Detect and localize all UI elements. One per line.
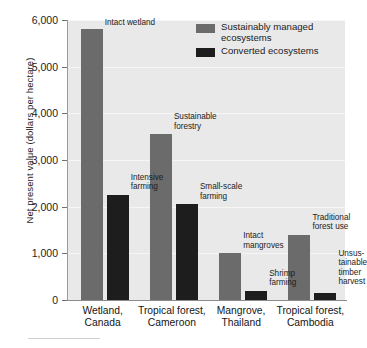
y-tick-label: 1,000	[12, 247, 58, 259]
legend-label: Converted ecosystems	[221, 46, 319, 57]
bar	[81, 29, 103, 300]
bar-value-label: Shrimp farming	[269, 269, 296, 288]
y-tick-mark	[62, 67, 67, 68]
bar	[176, 204, 198, 300]
legend-item[interactable]: Converted ecosystems	[196, 46, 346, 57]
y-tick-mark	[62, 113, 67, 114]
y-tick-label: 0	[12, 294, 58, 306]
y-tick-label: 4,000	[12, 107, 58, 119]
bar	[219, 253, 241, 300]
y-tick-label: 6,000	[12, 14, 58, 26]
y-tick-label: 2,000	[12, 201, 58, 213]
y-axis-line	[67, 20, 68, 301]
bar-value-label: Small-scale farming	[200, 182, 242, 201]
bar	[245, 291, 267, 300]
legend-swatch-icon	[196, 24, 215, 33]
bar	[314, 293, 336, 300]
footer-divider	[28, 338, 100, 339]
bar	[150, 134, 172, 300]
bar-value-label: Sustainable forestry	[174, 112, 217, 131]
chart-legend: Sustainably managed ecosystemsConverted …	[196, 22, 346, 60]
y-tick-mark	[62, 253, 67, 254]
bar-value-label: Unsus- tainable timber harvest	[338, 249, 367, 287]
bar	[107, 195, 129, 300]
y-tick-mark	[62, 20, 67, 21]
legend-item[interactable]: Sustainably managed ecosystems	[196, 22, 346, 43]
y-tick-label: 5,000	[12, 61, 58, 73]
bar-value-label: Traditional forest use	[312, 213, 350, 232]
bar-value-label: Intact wetland	[105, 18, 156, 27]
legend-label: Sustainably managed ecosystems	[221, 22, 313, 43]
y-tick-mark	[62, 207, 67, 208]
y-tick-mark	[62, 160, 67, 161]
y-tick-mark	[62, 300, 67, 301]
gridline	[68, 160, 345, 161]
gridline	[68, 67, 345, 68]
y-tick-label: 3,000	[12, 154, 58, 166]
bar-value-label: Intensive farming	[131, 173, 164, 192]
bar-value-label: Intact mangroves	[243, 231, 284, 250]
bar	[288, 235, 310, 300]
category-label: Tropical forest, Cambodia	[268, 305, 353, 330]
legend-swatch-icon	[196, 48, 215, 57]
x-axis-line	[68, 300, 347, 301]
